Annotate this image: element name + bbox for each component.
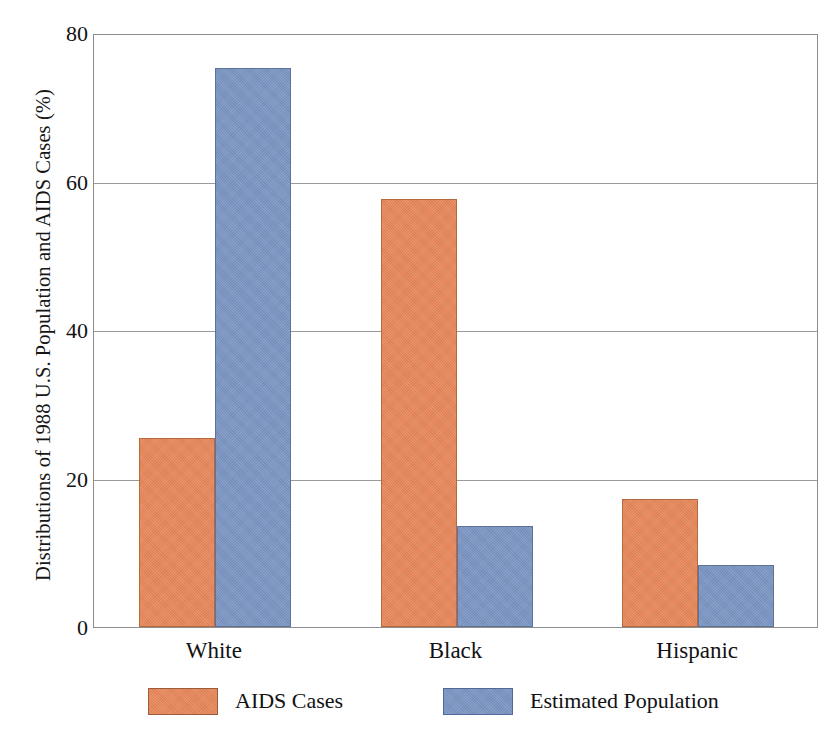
x-tick-label-hispanic: Hispanic bbox=[576, 636, 818, 666]
bar-hispanic-aids-cases bbox=[622, 499, 698, 627]
bar-hispanic-estimated-population bbox=[698, 565, 774, 627]
legend-swatch-aids-cases bbox=[148, 688, 218, 715]
legend-entry-estimated-population: Estimated Population bbox=[443, 684, 719, 718]
legend-label: Estimated Population bbox=[530, 688, 719, 714]
y-tick-label: 60 bbox=[36, 172, 88, 194]
x-tick-label-white: White bbox=[93, 636, 335, 666]
bar-chart-figure: Distributions of 1988 U.S. Population an… bbox=[0, 0, 840, 745]
y-tick-label: 0 bbox=[36, 617, 88, 639]
legend-label: AIDS Cases bbox=[235, 688, 343, 714]
chart-legend: AIDS CasesEstimated Population bbox=[93, 684, 818, 724]
y-tick-label: 80 bbox=[36, 23, 88, 45]
legend-entry-aids-cases: AIDS Cases bbox=[148, 684, 343, 718]
bar-black-estimated-population bbox=[457, 526, 533, 627]
x-axis-tick-labels: WhiteBlackHispanic bbox=[93, 636, 818, 672]
y-tick-label: 40 bbox=[36, 320, 88, 342]
gridline bbox=[94, 183, 817, 184]
bar-black-aids-cases bbox=[381, 199, 457, 627]
y-axis-tick-labels: 020406080 bbox=[36, 0, 88, 660]
x-tick-label-black: Black bbox=[335, 636, 577, 666]
bar-white-estimated-population bbox=[215, 68, 291, 627]
bar-white-aids-cases bbox=[139, 438, 215, 627]
plot-area bbox=[93, 34, 818, 628]
y-tick-label: 20 bbox=[36, 469, 88, 491]
legend-swatch-estimated-population bbox=[443, 688, 513, 715]
